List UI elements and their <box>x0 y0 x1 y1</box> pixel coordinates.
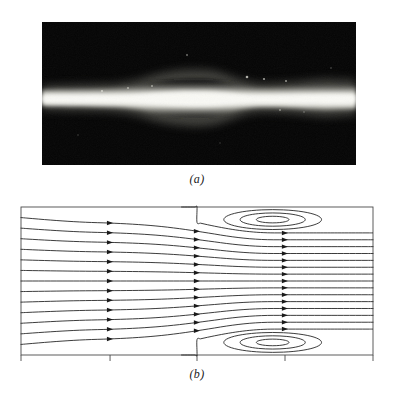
flow-arrow <box>107 269 113 273</box>
flow-arrow <box>282 244 288 248</box>
flow-arrow <box>107 288 113 292</box>
flow-arrow <box>107 250 113 254</box>
flow-arrow <box>282 272 288 276</box>
flow-arrow <box>107 337 113 341</box>
flow-arrow <box>194 329 200 333</box>
flow-arrow <box>194 229 200 233</box>
panel-b-caption: (b) <box>0 367 394 382</box>
flow-arrow <box>282 313 288 317</box>
flow-arrow <box>282 251 288 255</box>
flow-arrow <box>107 231 113 235</box>
flow-arrow <box>282 231 288 235</box>
flow-arrow <box>107 298 113 302</box>
flow-arrow <box>194 287 200 291</box>
flow-arrow <box>107 308 113 312</box>
flow-arrow <box>107 327 113 331</box>
flow-arrow <box>194 246 200 250</box>
flow-arrow <box>282 265 288 269</box>
flow-arrow <box>194 320 200 324</box>
lower-vortex-contour <box>256 339 289 346</box>
flow-arrow <box>194 237 200 241</box>
streamline-canvas <box>0 198 394 366</box>
flow-arrow <box>282 299 288 303</box>
film-grain <box>42 22 356 165</box>
panel-a-caption: (a) <box>0 172 394 187</box>
flow-arrow <box>282 286 288 290</box>
figure-container: (a) (b) <box>0 0 394 398</box>
flow-arrow <box>282 306 288 310</box>
streamline <box>21 249 373 260</box>
upper-vortex-contour <box>240 213 305 226</box>
flow-arrow <box>282 279 288 283</box>
flow-arrow <box>107 221 113 225</box>
flow-arrow <box>194 279 200 283</box>
flow-arrow <box>194 312 200 316</box>
flow-arrow <box>194 254 200 258</box>
streamline <box>21 302 373 313</box>
flow-arrow <box>282 327 288 331</box>
flow-arrow <box>107 317 113 321</box>
upper-vortex-contour <box>256 216 289 223</box>
photograph-canvas <box>42 22 356 165</box>
flow-arrow <box>194 295 200 299</box>
flow-arrow <box>194 304 200 308</box>
flow-arrow <box>194 262 200 266</box>
flow-arrow <box>107 240 113 244</box>
flow-arrow <box>107 279 113 283</box>
lower-vortex-contour <box>240 336 305 349</box>
panel-a-photograph <box>42 22 356 165</box>
flow-arrow <box>282 320 288 324</box>
flow-arrow <box>194 270 200 274</box>
flow-arrow <box>282 258 288 262</box>
flow-arrow <box>107 259 113 263</box>
panel-b-streamlines <box>0 198 394 366</box>
flow-arrow <box>282 293 288 297</box>
flow-arrow <box>282 238 288 242</box>
